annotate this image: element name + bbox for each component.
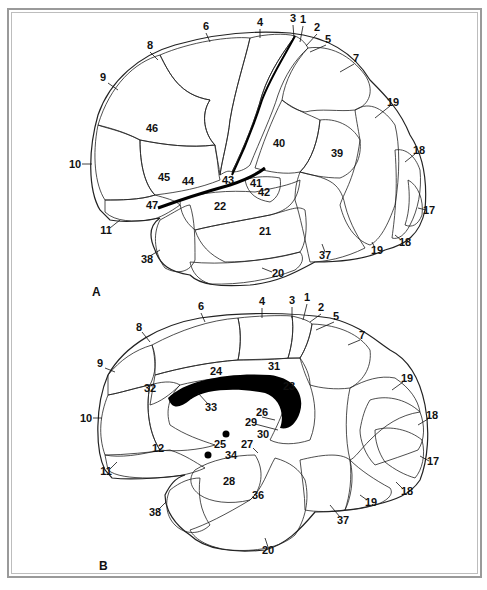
area-label: 3 — [290, 12, 296, 24]
area-label: 19 — [365, 496, 377, 508]
area-label: 18 — [413, 144, 425, 156]
area-label: 42 — [258, 186, 270, 198]
area-label: 21 — [259, 225, 271, 237]
area-label: 45 — [158, 171, 170, 183]
area-label: 23 — [283, 380, 295, 392]
area-label: 29 — [245, 416, 257, 428]
area-label: 40 — [273, 137, 285, 149]
area-label: 8 — [136, 321, 142, 333]
area-label: 33 — [205, 401, 217, 413]
area-label: 39 — [331, 147, 343, 159]
area-label: 27 — [241, 438, 253, 450]
area-label: 11 — [100, 224, 112, 236]
area-label: 5 — [333, 310, 339, 322]
area-label: 47 — [146, 199, 158, 211]
area-label: 7 — [359, 329, 365, 341]
area-label: 17 — [427, 455, 439, 467]
area-label: 38 — [141, 253, 153, 265]
area-label: 18 — [399, 236, 411, 248]
area-label: 34 — [225, 449, 238, 461]
area-label: 17 — [423, 204, 435, 216]
area-label: 46 — [146, 122, 158, 134]
area-label: 1 — [300, 13, 306, 25]
area-label: 19 — [401, 372, 413, 384]
panel-label-b: B — [99, 559, 108, 573]
area-label: 1 — [304, 291, 310, 303]
area-label: 4 — [259, 295, 266, 307]
area-label: 12 — [152, 442, 164, 454]
area-label: 4 — [257, 16, 264, 28]
area-label: 20 — [262, 544, 274, 556]
area-label: 6 — [203, 20, 209, 32]
area-label: 36 — [252, 489, 264, 501]
area-label: 3 — [289, 294, 295, 306]
area-label: 44 — [182, 175, 195, 187]
area-label: 22 — [214, 200, 226, 212]
area-label: 8 — [147, 39, 153, 51]
area-label: 5 — [325, 33, 331, 45]
area-label: 37 — [319, 249, 331, 261]
area-label: 32 — [144, 382, 156, 394]
area-label: 38 — [149, 506, 161, 518]
area-label: 24 — [210, 365, 223, 377]
brodmann-diagram: 1 2 3 4 5 6 7 8 9 10 11 17 18 18 19 19 2… — [0, 0, 487, 590]
area-label: 9 — [100, 71, 106, 83]
area-label: 11 — [100, 465, 112, 477]
area-label: 2 — [318, 301, 324, 313]
area-label: 28 — [223, 475, 235, 487]
area-label: 2 — [314, 21, 320, 33]
area-label: 6 — [198, 300, 204, 312]
area-label: 18 — [401, 485, 413, 497]
area-label: 7 — [353, 52, 359, 64]
area-label: 19 — [371, 244, 383, 256]
area-label: 10 — [69, 158, 81, 170]
area-label: 18 — [426, 409, 438, 421]
area-label: 19 — [387, 96, 399, 108]
area-label: 30 — [257, 428, 269, 440]
area-label: 37 — [337, 514, 349, 526]
area-label: 26 — [256, 406, 268, 418]
area-label: 20 — [272, 267, 284, 279]
area-label: 9 — [97, 357, 103, 369]
panel-label-a: A — [92, 285, 101, 299]
area-label: 43 — [222, 174, 234, 186]
area-label: 10 — [80, 412, 92, 424]
area-label: 31 — [268, 360, 280, 372]
